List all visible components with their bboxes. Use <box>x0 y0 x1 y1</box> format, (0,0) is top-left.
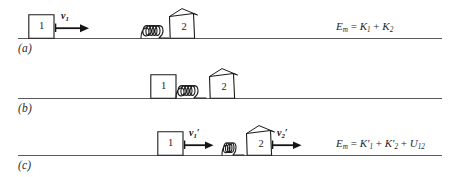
equation-a: Em = K1 + K2 <box>336 20 393 32</box>
equation-c-lhs: E <box>336 137 343 149</box>
equation-a-term2-sym: K <box>382 20 389 32</box>
block-1-c: 1 <box>157 131 184 156</box>
velocity-label-v2-prime-c: v2′ <box>277 127 288 138</box>
equation-a-lhs: E <box>336 20 343 32</box>
equation-c-term3-sub: 12 <box>418 143 425 151</box>
equals-sign-c: = <box>351 137 357 149</box>
block-2-a-number: 2 <box>172 21 196 32</box>
velocity-arrow-v1-prime-c <box>184 139 216 151</box>
block-2-b-number: 2 <box>212 81 236 92</box>
block-2-a: 2 <box>166 8 200 40</box>
equation-c-term2-sub: 2 <box>394 143 398 151</box>
velocity-label-v1-prime-c: v1′ <box>189 127 200 138</box>
block-1-a: 1 <box>28 14 55 39</box>
v1-subscript: 1 <box>65 15 68 22</box>
block-1-a-number: 1 <box>28 20 55 31</box>
ground-line-a <box>18 38 442 39</box>
v2-prime-subscript: 2 <box>281 132 284 139</box>
velocity-label-v1-a: v1 <box>61 10 69 21</box>
v1-prime-mark: ′ <box>197 127 200 138</box>
block-2-c-number: 2 <box>249 138 273 149</box>
spring-b <box>175 79 209 99</box>
block-1-b-number: 1 <box>150 80 177 91</box>
velocity-arrow-v2-prime-c <box>272 139 304 151</box>
plus-sign-c-2: + <box>401 137 407 149</box>
plus-sign-a-1: + <box>373 20 379 32</box>
equation-a-lhs-sub: m <box>343 26 348 34</box>
equation-c: Em = K′1 + K′2 + U12 <box>336 137 425 149</box>
plus-sign-c-1: + <box>376 137 382 149</box>
velocity-arrow-v1-a <box>55 22 91 34</box>
equals-sign-a: = <box>351 20 357 32</box>
v1-prime-subscript: 1 <box>193 132 196 139</box>
v2-prime-mark: ′ <box>285 127 288 138</box>
equation-a-term2-sub: 2 <box>390 26 394 34</box>
equation-a-term1-sub: 1 <box>367 26 371 34</box>
panel-label-b: (b) <box>18 102 32 114</box>
panel-label-c: (c) <box>18 159 31 171</box>
equation-c-term1-sub: 1 <box>369 143 373 151</box>
physics-figure: 1 2 v1 Em <box>0 0 459 177</box>
block-1-b: 1 <box>150 74 177 99</box>
equation-a-term1-sym: K <box>360 20 367 32</box>
equation-c-lhs-sub: m <box>343 143 348 151</box>
panel-label-a: (a) <box>18 42 32 54</box>
block-1-c-number: 1 <box>157 137 184 148</box>
block-2-b: 2 <box>206 68 240 100</box>
equation-c-term2-sym: K <box>385 137 392 149</box>
equation-c-term3-sym: U <box>410 137 418 149</box>
equation-c-term1-sym: K <box>360 137 367 149</box>
